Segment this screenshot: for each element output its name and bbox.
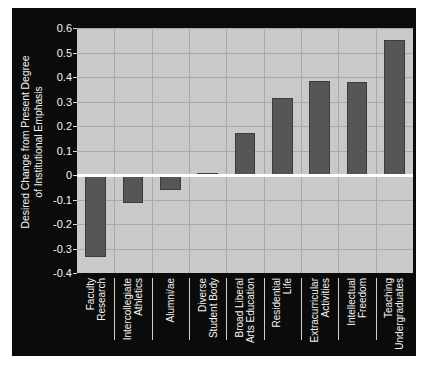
zero-reference-line bbox=[77, 174, 413, 177]
gridline bbox=[376, 28, 377, 273]
x-axis-category-label: DiverseStudent Body bbox=[197, 278, 219, 338]
x-axis-category-label: Alumni/ae bbox=[165, 278, 176, 322]
bar bbox=[85, 175, 106, 257]
y-axis-tick-label: 0.5 bbox=[38, 47, 72, 59]
bar bbox=[347, 82, 368, 175]
y-axis-tick-label: 0.1 bbox=[38, 145, 72, 157]
x-axis-category-label: ExtracurricularActivities bbox=[309, 278, 331, 342]
y-axis-title-line-1: Desired Change from Present Degree bbox=[19, 56, 31, 229]
gridline bbox=[226, 28, 227, 273]
x-axis-category-label-line: Alumni/ae bbox=[165, 278, 176, 322]
x-axis-category-label-line: Faculty bbox=[85, 278, 96, 321]
gridline bbox=[114, 28, 115, 273]
x-axis-category-label-line: Research bbox=[96, 278, 107, 321]
plot-area bbox=[77, 28, 413, 273]
x-axis-category: Alumni/ae bbox=[152, 274, 189, 356]
gridline bbox=[77, 28, 413, 29]
gridline bbox=[77, 249, 413, 250]
gridline bbox=[77, 77, 413, 78]
x-axis-separator bbox=[376, 278, 377, 340]
x-axis-category-label: IntellectualFreedom bbox=[346, 278, 368, 326]
gridline bbox=[264, 28, 265, 273]
x-axis-category-label-line: Intercollegiate bbox=[122, 278, 133, 340]
y-axis-tick-label: -0.1 bbox=[38, 194, 72, 206]
y-axis-tick-label: 0.6 bbox=[38, 22, 72, 34]
x-axis-separator bbox=[152, 278, 153, 340]
x-axis-category-label-line: Life bbox=[282, 278, 293, 327]
gridline bbox=[189, 28, 190, 273]
x-axis-category-label-line: Teaching bbox=[383, 278, 394, 350]
gridline bbox=[152, 28, 153, 273]
x-axis-category-label-line: Arts Education bbox=[245, 278, 256, 343]
x-axis-category-label: IntercollegiateAthletics bbox=[122, 278, 144, 340]
x-axis-category: IntellectualFreedom bbox=[338, 274, 375, 356]
x-axis-category: DiverseStudent Body bbox=[189, 274, 226, 356]
bar bbox=[384, 40, 405, 175]
x-axis-category-label-line: Diverse bbox=[197, 278, 208, 338]
chart-figure: Desired Change from Present Degree of In… bbox=[12, 8, 416, 356]
x-axis-category: ExtracurricularActivities bbox=[301, 274, 338, 356]
x-axis-category-label-line: Undergraduates bbox=[394, 278, 405, 350]
bar bbox=[160, 175, 181, 190]
x-axis-category-label-line: Athletics bbox=[133, 278, 144, 340]
bar bbox=[123, 175, 144, 203]
x-axis-category-label-line: Intellectual bbox=[346, 278, 357, 326]
gridline bbox=[77, 224, 413, 225]
x-axis-category-label-line: Extracurricular bbox=[309, 278, 320, 342]
x-axis-category-label-line: Broad Liberal bbox=[234, 278, 245, 343]
x-axis-category-label: FacultyResearch bbox=[85, 278, 107, 321]
x-axis-category-labels: FacultyResearchIntercollegiateAthleticsA… bbox=[77, 274, 413, 356]
x-axis-category-label-line: Student Body bbox=[208, 278, 219, 338]
y-axis-tick-label: 0 bbox=[38, 169, 72, 181]
x-axis-category-label-line: Freedom bbox=[357, 278, 368, 326]
x-axis-category: IntercollegiateAthletics bbox=[114, 274, 151, 356]
x-axis-category-label: Broad LiberalArts Education bbox=[234, 278, 256, 343]
bar bbox=[309, 81, 330, 175]
x-axis-separator bbox=[114, 278, 115, 340]
x-axis-separator bbox=[338, 278, 339, 340]
y-axis-tick-label: -0.3 bbox=[38, 243, 72, 255]
x-axis-category-label: ResidentialLife bbox=[271, 278, 293, 327]
x-axis-category-label: TeachingUndergraduates bbox=[383, 278, 405, 350]
gridline bbox=[77, 53, 413, 54]
x-axis-separator bbox=[264, 278, 265, 340]
x-axis-category: FacultyResearch bbox=[77, 274, 114, 356]
y-axis-tick-label: 0.4 bbox=[38, 71, 72, 83]
x-axis-category: Broad LiberalArts Education bbox=[226, 274, 263, 356]
x-axis-separator bbox=[226, 278, 227, 340]
x-axis-category-label-line: Residential bbox=[271, 278, 282, 327]
y-axis-tick-label: -0.2 bbox=[38, 218, 72, 230]
y-axis-tick-label: 0.2 bbox=[38, 120, 72, 132]
y-axis-tick-labels: 0.60.50.40.30.20.10-0.1-0.2-0.3-0.4 bbox=[36, 8, 72, 356]
y-axis-tick-label: -0.4 bbox=[38, 267, 72, 279]
x-axis-separator bbox=[189, 278, 190, 340]
x-axis-category: TeachingUndergraduates bbox=[376, 274, 413, 356]
y-axis-tick-label: 0.3 bbox=[38, 96, 72, 108]
x-axis-category-label-line: Activities bbox=[320, 278, 331, 342]
bar bbox=[235, 133, 256, 175]
x-axis-category: ResidentialLife bbox=[264, 274, 301, 356]
gridline bbox=[338, 28, 339, 273]
gridline bbox=[301, 28, 302, 273]
x-axis-separator bbox=[301, 278, 302, 340]
bar bbox=[272, 98, 293, 175]
